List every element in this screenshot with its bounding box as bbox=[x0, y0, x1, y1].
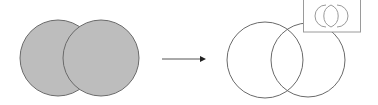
filled-circles-group bbox=[20, 20, 139, 96]
filled-circle-right bbox=[63, 20, 139, 96]
arrow bbox=[162, 56, 206, 62]
outlined-circle-left bbox=[227, 22, 303, 98]
inset-box bbox=[304, 0, 361, 32]
outlined-circles-group bbox=[227, 22, 345, 98]
outlined-circle-right bbox=[271, 23, 345, 97]
venn-transform-diagram bbox=[0, 0, 378, 105]
arrow-head-icon bbox=[200, 56, 206, 62]
